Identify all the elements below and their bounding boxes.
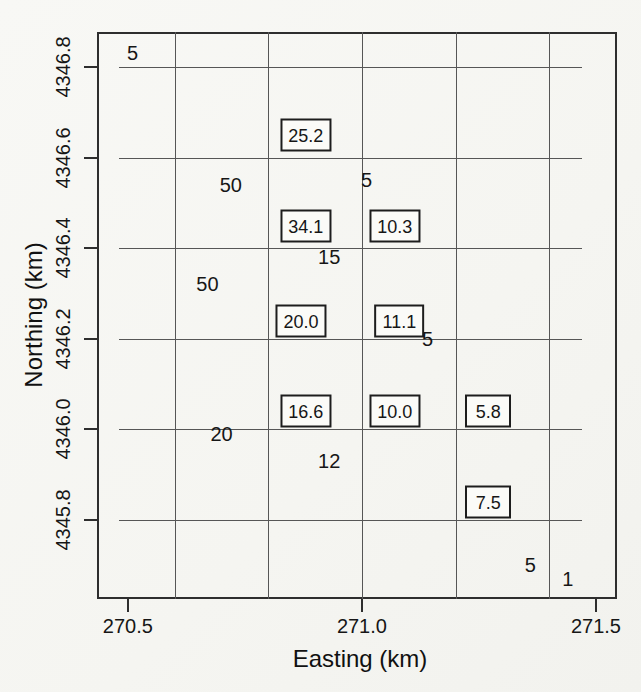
y-axis-tick-label: 4346.2 xyxy=(52,308,75,369)
data-point-boxed: 10.3 xyxy=(369,209,420,242)
gridline-horizontal xyxy=(119,67,582,68)
gridline-vertical xyxy=(175,32,176,599)
gridline-horizontal xyxy=(119,248,582,249)
data-point-boxed: 7.5 xyxy=(465,486,511,519)
y-axis-tick xyxy=(84,338,97,340)
y-axis-tick-label: 4346.6 xyxy=(52,127,75,188)
data-point-boxed: 10.0 xyxy=(369,395,420,428)
y-axis-tick xyxy=(84,157,97,159)
y-axis-tick xyxy=(84,519,97,521)
data-point-label: 5 xyxy=(127,43,138,63)
data-point-label: 15 xyxy=(318,247,340,267)
data-point-boxed: 5.8 xyxy=(465,395,511,428)
spatial-posting-chart: Easting (km) Northing (km) 270.5271.0271… xyxy=(0,0,641,692)
gridline-horizontal xyxy=(119,429,582,430)
data-point-boxed: 11.1 xyxy=(374,304,424,337)
x-axis-tick xyxy=(595,599,597,612)
data-point-label: 5 xyxy=(422,329,433,349)
x-axis-tick xyxy=(361,599,363,612)
data-point-label: 5 xyxy=(361,170,372,190)
x-axis-tick-label: 270.5 xyxy=(103,615,153,638)
data-point-label: 12 xyxy=(318,451,340,471)
y-axis-tick xyxy=(84,66,97,68)
data-point-label: 50 xyxy=(196,274,218,294)
data-point-label: 50 xyxy=(220,175,242,195)
data-point-boxed: 20.0 xyxy=(276,304,327,337)
data-point-label: 1 xyxy=(562,569,573,589)
data-point-boxed: 34.1 xyxy=(280,209,331,242)
y-axis-tick-label: 4346.8 xyxy=(52,36,75,97)
gridline-horizontal xyxy=(119,520,582,521)
data-point-label: 20 xyxy=(210,424,232,444)
y-axis-title: Northing (km) xyxy=(20,242,48,387)
x-axis-tick-label: 271.0 xyxy=(337,615,387,638)
y-axis-tick xyxy=(84,247,97,249)
data-point-label: 5 xyxy=(525,555,536,575)
data-point-boxed: 16.6 xyxy=(280,395,331,428)
x-axis-tick xyxy=(127,599,129,612)
y-axis-tick-label: 4346.4 xyxy=(52,218,75,279)
gridline-vertical xyxy=(456,32,457,599)
gridline-vertical xyxy=(549,32,550,599)
gridline-horizontal xyxy=(119,158,582,159)
data-point-boxed: 25.2 xyxy=(280,118,331,151)
x-axis-title: Easting (km) xyxy=(293,645,428,673)
gridline-horizontal xyxy=(119,339,582,340)
gridline-vertical xyxy=(268,32,269,599)
y-axis-tick-label: 4345.8 xyxy=(52,490,75,551)
x-axis-tick-label: 271.5 xyxy=(571,615,621,638)
gridline-vertical xyxy=(362,32,363,599)
y-axis-tick xyxy=(84,428,97,430)
y-axis-tick-label: 4346.0 xyxy=(52,399,75,460)
